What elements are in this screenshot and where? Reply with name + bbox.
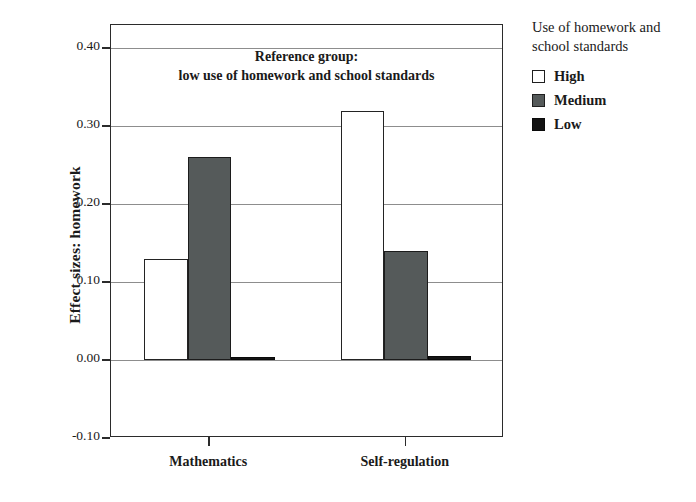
y-tick-mark (102, 359, 110, 361)
plot-area: Reference group: low use of homework and… (110, 24, 503, 437)
y-tick-label: 0.10 (52, 272, 100, 288)
bar-self-regulation-medium (384, 251, 428, 360)
bar-self-regulation-low (428, 356, 472, 360)
legend-item-high[interactable]: High (532, 68, 696, 85)
legend: Use of homework and school standards Hig… (532, 18, 696, 140)
y-tick-label: 0.00 (52, 350, 100, 366)
x-tick-mark (208, 437, 210, 446)
x-tick-mark (405, 437, 407, 446)
x-tick-label: Mathematics (169, 454, 247, 470)
figure-canvas: Effect sizes: homework Reference group: … (0, 0, 696, 502)
y-tick-mark (102, 281, 110, 283)
white-square-swatch (532, 70, 545, 83)
y-tick-mark (102, 437, 110, 439)
y-tick-label: -0.10 (52, 428, 100, 444)
legend-title: Use of homework and school standards (532, 18, 696, 56)
y-tick-mark (102, 125, 110, 127)
bar-mathematics-medium (188, 157, 232, 360)
gray-square-swatch (532, 94, 545, 107)
legend-item-medium[interactable]: Medium (532, 92, 696, 109)
bar-mathematics-low (231, 357, 275, 360)
gridline (111, 48, 502, 49)
gridline (111, 204, 502, 205)
y-tick-mark (102, 203, 110, 205)
x-tick-label: Self-regulation (361, 454, 449, 470)
annotation-line-1: Reference group: (111, 47, 502, 66)
y-tick-label: 0.30 (52, 116, 100, 132)
legend-item-label: High (554, 68, 585, 85)
legend-title-line-1: Use of homework and (532, 18, 696, 37)
y-tick-label: 0.20 (52, 194, 100, 210)
y-tick-mark (102, 47, 110, 49)
bar-self-regulation-high (341, 111, 385, 360)
gridline (111, 126, 502, 127)
annotation-line-2: low use of homework and school standards (111, 66, 502, 85)
reference-group-annotation: Reference group: low use of homework and… (111, 47, 502, 85)
black-square-swatch (532, 118, 545, 131)
gridline (111, 360, 502, 361)
bar-mathematics-high (144, 259, 188, 360)
legend-entries: HighMediumLow (532, 68, 696, 133)
legend-item-label: Medium (554, 92, 606, 109)
legend-item-label: Low (554, 116, 581, 133)
legend-title-line-2: school standards (532, 37, 696, 56)
y-tick-label: 0.40 (52, 38, 100, 54)
legend-item-low[interactable]: Low (532, 116, 696, 133)
